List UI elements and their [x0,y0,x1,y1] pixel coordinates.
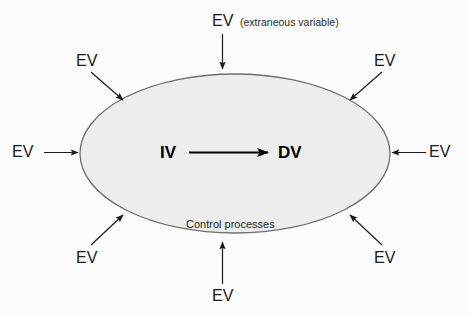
ev-top-right-arrow [350,72,382,100]
ev-bottom-right-arrow [350,215,382,245]
ev-label-top-right: EV [374,53,396,69]
diagram-vector-layer [0,0,470,316]
control-processes-label: Control processes [186,219,275,230]
dependent-variable-label: DV [278,144,302,161]
ev-label-middle-left: EV [12,144,34,160]
independent-variable-label: IV [160,144,176,161]
extraneous-variable-annotation: (extraneous variable) [240,17,339,28]
ev-label-top-left: EV [76,53,98,69]
ev-label-bottom-left: EV [76,250,98,266]
diagram-canvas: EV (extraneous variable) EV EV EV EV EV … [0,0,470,316]
ev-top-left-arrow [91,72,123,100]
ev-label-bottom-right: EV [374,250,396,266]
ev-bottom-left-arrow [91,215,123,245]
ev-label-top-center: EV [212,13,234,29]
ev-label-bottom-center: EV [212,288,234,304]
ev-label-middle-right: EV [429,144,451,160]
